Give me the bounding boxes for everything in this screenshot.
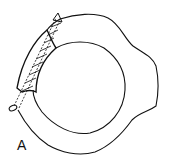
- panel-label: A: [17, 137, 26, 153]
- screw-tip: [53, 13, 62, 22]
- fractured-fragment: [17, 30, 56, 92]
- inner-canal-contour: [33, 42, 125, 134]
- lag-screw: [8, 13, 62, 112]
- screw-head: [8, 104, 17, 112]
- figure-canvas: A: [0, 0, 173, 165]
